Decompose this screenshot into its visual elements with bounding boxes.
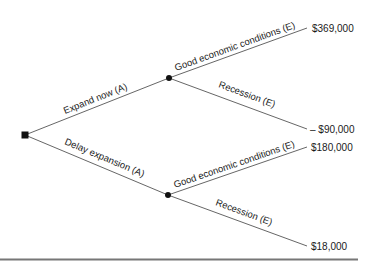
payoff-delay-good: $180,000 [311, 142, 353, 153]
branch-expand-now [25, 78, 169, 135]
decision-node-square [22, 132, 29, 139]
label-expand-good: Good economic conditions (E) [173, 19, 296, 73]
payoff-delay-recession: $18,000 [311, 241, 348, 252]
branch-expand-good [169, 28, 307, 78]
branch-delay-good [168, 147, 307, 195]
decision-tree-diagram: Expand now (A) Delay expansion (A) Good … [0, 0, 377, 267]
label-delay-good: Good economic conditions (E) [172, 138, 296, 190]
payoff-expand-recession: – $90,000 [310, 124, 355, 135]
label-delay-expansion: Delay expansion (A) [63, 136, 146, 179]
branch-delay-expansion [25, 135, 168, 195]
chance-node-delay [165, 192, 171, 198]
label-expand-recession: Recession (E) [217, 79, 277, 110]
payoff-expand-good: $369,000 [312, 23, 354, 34]
chance-node-expand [166, 75, 172, 81]
